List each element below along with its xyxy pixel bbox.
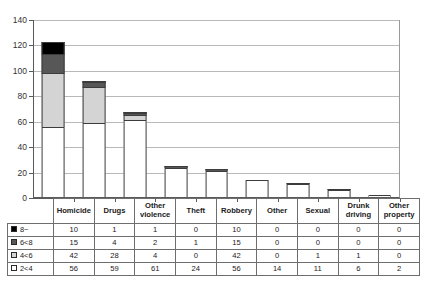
legend-key-label: 6<8 [20,238,33,247]
table-cell: 56 [54,263,95,276]
table-cell: 6 [338,263,379,276]
table-header-row: HomicideDrugsOther violenceTheftRobberyO… [8,199,420,224]
table-corner-cell [8,199,54,224]
table-cell: 1 [175,237,216,250]
legend-key-cell: 4<6 [8,250,54,263]
table-col-header: Drugs [94,199,135,224]
table-cell: 56 [216,263,257,276]
table-col-header: Other violence [135,199,176,224]
table-cell: 0 [379,250,420,263]
table-row: 2<45659612456141162 [8,263,420,276]
table-cell: 15 [216,237,257,250]
table-col-header: Homicide [54,199,95,224]
table-col-header: Theft [175,199,216,224]
table-cell: 11 [297,263,338,276]
table-cell: 42 [216,250,257,263]
table-row: 4<6422840420110 [8,250,420,263]
y-axis-label-100: 100 [13,67,27,76]
table-cell: 28 [94,250,135,263]
table-cell: 15 [54,237,95,250]
plot-area: 020406080100120140 [33,20,400,198]
table-cell: 10 [216,224,257,237]
table-cell: 0 [175,250,216,263]
table-cell: 14 [257,263,298,276]
table-cell: 1 [94,224,135,237]
table-cell: 0 [338,237,379,250]
table-cell: 0 [379,237,420,250]
legend-key-cell: 6<8 [8,237,54,250]
table-cell: 2 [135,237,176,250]
table-cell: 1 [135,224,176,237]
table-cell: 10 [54,224,95,237]
table-col-header: Other [257,199,298,224]
legend-key-cell: 2<4 [8,263,54,276]
table-cell: 0 [338,224,379,237]
table-cell: 61 [135,263,176,276]
table-col-header: Drunk driving [338,199,379,224]
table-cell: 0 [175,224,216,237]
table-cell: 1 [338,250,379,263]
table-cell: 4 [94,237,135,250]
table-col-header: Robbery [216,199,257,224]
table-row: 8~10110100000 [8,224,420,237]
legend-key-label: 2<4 [20,264,33,273]
legend-swatch-icon [11,265,17,271]
data-table: HomicideDrugsOther violenceTheftRobberyO… [7,198,420,276]
y-axis-label-140: 140 [13,16,27,25]
table-col-header: Sexual [297,199,338,224]
table-body: 8~101101000006<8154211500004<64228404201… [8,224,420,276]
y-axis-label-80: 80 [18,92,27,101]
table-cell: 0 [297,224,338,237]
legend-swatch-icon [11,239,17,245]
table-row: 6<815421150000 [8,237,420,250]
table-cell: 0 [297,237,338,250]
legend-key-cell: 8~ [8,224,54,237]
legend-swatch-icon [11,252,17,258]
legend-key-label: 8~ [20,225,28,234]
chart-figure: 020406080100120140 HomicideDrugsOther vi… [0,0,426,293]
y-axis-label-60: 60 [18,117,27,126]
table-cell: 0 [257,250,298,263]
table-cell: 0 [379,224,420,237]
y-axis-label-120: 120 [13,41,27,50]
table-cell: 0 [257,224,298,237]
y-axis-label-20: 20 [18,168,27,177]
legend-key-label: 4<6 [20,251,33,260]
table-col-header: Other property [379,199,420,224]
table-cell: 4 [135,250,176,263]
table-cell: 24 [175,263,216,276]
legend-swatch-icon [11,226,17,232]
table-cell: 42 [54,250,95,263]
table-cell: 2 [379,263,420,276]
y-axis-label-40: 40 [18,143,27,152]
table-cell: 1 [297,250,338,263]
plot-frame [33,20,400,198]
table-cell: 0 [257,237,298,250]
table-cell: 59 [94,263,135,276]
